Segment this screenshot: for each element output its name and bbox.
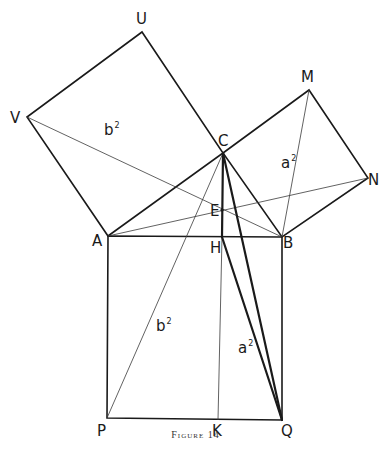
line-CP [107, 153, 223, 418]
label-B: B [283, 234, 293, 252]
area-label-a2-lower: a2 [238, 339, 253, 357]
label-C: C [218, 132, 228, 150]
label-N: N [368, 171, 379, 189]
point-E-dot [220, 208, 223, 211]
line-CH [222, 153, 223, 237]
pythagorean-proof-diagram: U V C M N A B E H P K Q b2 a2 b2 a2 [0, 0, 391, 461]
line-CQ [223, 153, 282, 420]
figure-caption: Figure 14 [0, 429, 391, 440]
label-H: H [210, 239, 221, 257]
line-HQ [222, 237, 282, 420]
label-E: E [210, 202, 219, 220]
square-hypotenuse [107, 236, 282, 420]
square-b2-upper [27, 32, 223, 236]
label-V: V [10, 109, 21, 127]
line-HK [218, 237, 222, 420]
line-VB [27, 117, 282, 237]
label-U: U [136, 10, 147, 28]
area-label-b2-upper: b2 [104, 121, 120, 139]
label-M: M [301, 68, 314, 86]
label-A: A [92, 232, 103, 250]
area-label-b2-lower: b2 [156, 317, 172, 335]
area-label-a2-upper: a2 [281, 154, 296, 172]
